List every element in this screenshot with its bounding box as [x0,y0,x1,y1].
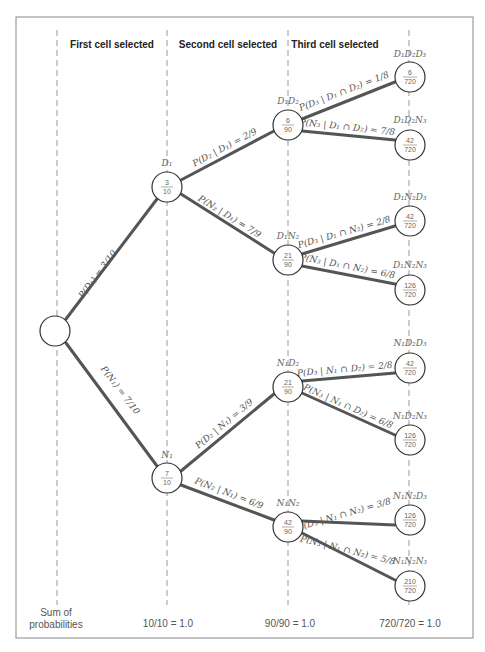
prob-N3-given-N1D2: P(N₃ | N₁ ∩ D₂) = 6/8 [301,382,395,432]
node-N1D2N3: N₁D₂N₃ 126 720 [392,411,427,455]
prob-D2-given-D1: P(D₂ | D₁) = 2/9 [190,126,259,170]
node-N1N2: N₁N₂ 42 90 [273,498,303,542]
svg-text:D₁N₂N₃: D₁N₂N₃ [392,260,427,270]
svg-text:N₁N₂D₃: N₁N₂D₃ [392,491,427,501]
diagram-frame [16,17,473,638]
svg-text:42: 42 [406,213,414,220]
node-D1: D₁ 3 10 [152,158,182,202]
node-N1N2N3: N₁N₂N₃ 210 720 [392,556,428,601]
header-second: Second cell selected [179,39,277,50]
svg-text:42: 42 [406,137,414,144]
svg-text:6: 6 [286,117,290,124]
svg-text:720: 720 [404,521,416,528]
svg-text:90: 90 [284,388,292,395]
node-N1D2: N₁D₂ 21 90 [273,358,303,402]
svg-text:126: 126 [404,282,416,289]
node-D1N2: D₁N₂ 21 90 [273,231,303,275]
prob-N1: P(N₁) = 7/10 [98,363,142,416]
prob-N3-given-D1N2: P(N₃ | D₁ ∩ N₂) = 6/8 [298,252,396,281]
svg-text:720: 720 [404,222,416,229]
header-third: Third cell selected [291,39,378,50]
node-label: D₁ [161,158,173,168]
footer-label-line2: probabilities [29,619,82,630]
svg-text:10: 10 [163,188,171,195]
node-D1D2N3: D₁D₂N₃ 42 720 [392,115,427,160]
svg-text:D₁D₂D₃: D₁D₂D₃ [393,49,427,59]
svg-text:21: 21 [284,252,292,259]
svg-text:10: 10 [163,479,171,486]
svg-text:720: 720 [404,146,416,153]
footer-sum-second: 90/90 = 1.0 [265,618,316,629]
prob-D3-given-N1N2: P(D₃ | N₁ ∩ N₂) = 3/8 [295,496,392,534]
svg-text:42: 42 [406,360,414,367]
prob-N2-given-D1: P(N₂ | D₁) = 7/9 [195,193,263,241]
header-first: First cell selected [70,39,154,50]
svg-text:21: 21 [284,379,292,386]
prob-D3-given-D1D2: P(D₃ | D₁ ∩ D₂) = 1/8 [297,69,391,114]
svg-text:210: 210 [404,578,416,585]
node-N1D2D3: N₁D₂D₃ 42 720 [392,338,427,383]
svg-text:90: 90 [284,126,292,133]
footer-sum-first: 10/10 = 1.0 [143,618,194,629]
prob-N3-given-N1N2: P(N₃ | N₁ ∩ N₂) = 5/8 [298,533,396,568]
branch-N1 [66,343,157,466]
node-D1D2: D₁D₂ 6 90 [273,96,303,140]
branch-N1D2N3 [302,393,395,435]
svg-text:N₁D₂: N₁D₂ [276,358,300,368]
svg-text:6: 6 [408,69,412,76]
svg-text:90: 90 [284,528,292,535]
node-D1N2N3: D₁N₂N₃ 126 720 [392,260,427,305]
svg-text:N₁N₂N₃: N₁N₂N₃ [392,556,428,566]
root-node [40,316,70,346]
svg-text:720: 720 [404,369,416,376]
svg-text:3: 3 [165,179,169,186]
prob-D1: P(D₁) = 3/10 [76,248,119,301]
svg-text:D₁N₂: D₁N₂ [276,231,300,241]
svg-text:N₁D₂D₃: N₁D₂D₃ [392,338,427,348]
footer-sum-third: 720/720 = 1.0 [379,618,441,629]
svg-text:720: 720 [404,587,416,594]
svg-text:N₁N₂: N₁N₂ [276,498,300,508]
svg-text:7: 7 [165,470,169,477]
branch-N1D2 [181,394,274,471]
footer-label-line1: Sum of [40,607,72,618]
branch-D1D2 [181,131,274,180]
branch-D1N2 [181,194,274,253]
svg-text:720: 720 [404,441,416,448]
svg-text:720: 720 [404,78,416,85]
svg-text:90: 90 [284,261,292,268]
svg-text:126: 126 [404,512,416,519]
svg-text:126: 126 [404,432,416,439]
node-D1D2D3: D₁D₂D₃ 6 720 [393,49,427,92]
node-N1: N₁ 7 10 [152,450,182,493]
node-N1N2D3: N₁N₂D₃ 126 720 [392,491,427,535]
svg-text:42: 42 [284,519,292,526]
probability-tree-diagram: First cell selected Second cell selected… [0,0,485,652]
svg-text:D₁D₂N₃: D₁D₂N₃ [392,115,427,125]
node-label: N₁ [160,450,172,460]
svg-text:720: 720 [404,291,416,298]
svg-text:N₁D₂N₃: N₁D₂N₃ [392,411,427,421]
node-D1N2D3: D₁N₂D₃ 42 720 [392,192,427,236]
prob-D2-given-N1: P(D₂ | N₁) = 3/9 [193,397,256,452]
svg-text:D₁N₂D₃: D₁N₂D₃ [392,192,427,202]
svg-text:D₁D₂: D₁D₂ [276,96,299,106]
